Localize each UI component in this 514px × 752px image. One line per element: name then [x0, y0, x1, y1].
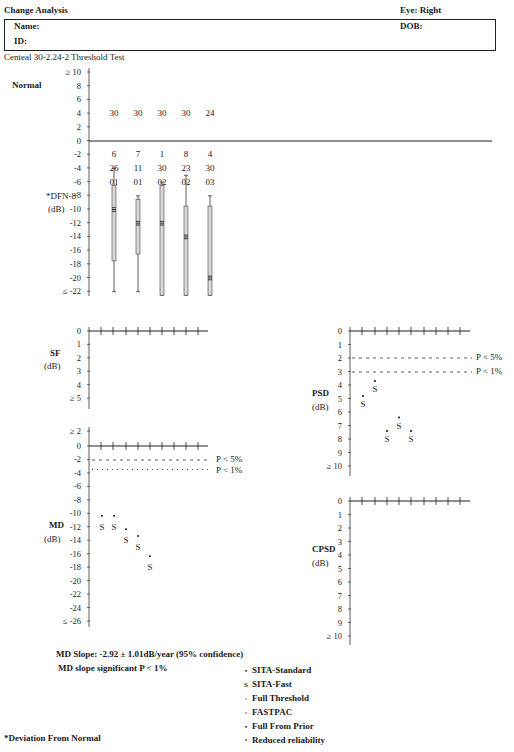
y-tick-label: -16	[70, 245, 81, 255]
svg-text:11: 11	[134, 163, 143, 173]
legend-label: Full From Prior	[252, 721, 314, 731]
y-tick-label: 0	[77, 326, 81, 336]
psd-p5-label: P < 5%	[476, 352, 502, 362]
svg-text:S: S	[135, 542, 140, 552]
y-tick-label: 3	[77, 366, 81, 376]
y-tick-label: -2	[74, 149, 81, 159]
legend-item: •SITA-Standard	[240, 665, 311, 675]
svg-text:0: 0	[77, 441, 81, 451]
legend-symbol-icon: ▫	[240, 709, 252, 717]
y-tick-label: -18	[70, 259, 81, 269]
svg-text:-4: -4	[74, 468, 82, 478]
y-tick-label: 3	[338, 367, 342, 377]
svg-text:S: S	[408, 434, 413, 444]
y-tick-label: 8	[338, 604, 342, 614]
svg-text:-24: -24	[70, 603, 82, 613]
y-tick-label: ≥ 10	[327, 631, 342, 641]
y-tick-label: 6	[338, 577, 342, 587]
legend-item: •Full From Prior	[240, 721, 314, 731]
svg-text:S: S	[123, 535, 128, 545]
charts-canvas: ≥ 1086420-2-4-6-8-10-12-14-16-18-20≤ -22…	[0, 0, 514, 752]
svg-text:8: 8	[184, 149, 189, 159]
y-tick-label: -12	[70, 218, 81, 228]
legend-item: ◦Full Threshold	[240, 693, 309, 703]
y-tick-label: ≥ 10	[327, 461, 342, 471]
y-tick-label: -8	[74, 190, 81, 200]
legend-symbol-icon: •	[240, 723, 252, 731]
y-tick-label: 6	[338, 407, 342, 417]
y-tick-label: 7	[338, 591, 342, 601]
svg-text:30: 30	[134, 108, 144, 118]
y-tick-label: ≥ 5	[70, 393, 81, 403]
svg-text:≤ -26: ≤ -26	[63, 616, 81, 626]
legend-label: SITA-Standard	[252, 665, 311, 675]
legend-symbol-icon: ◦	[240, 695, 252, 703]
y-tick-label: -10	[70, 204, 81, 214]
y-tick-label: -6	[74, 177, 81, 187]
psd-chart: 0123456789≥ 10 SSSSS	[327, 326, 472, 476]
y-tick-label: 2	[338, 353, 342, 363]
svg-text:30: 30	[182, 108, 192, 118]
sf-chart: 01234≥ 5	[70, 326, 208, 409]
y-tick-label: 5	[338, 394, 342, 404]
svg-text:-20: -20	[70, 576, 81, 586]
y-tick-label: 9	[338, 618, 342, 628]
svg-text:30: 30	[206, 163, 216, 173]
md-p5-label: P < 5%	[216, 454, 242, 464]
y-tick-label: 8	[77, 81, 81, 91]
svg-text:S: S	[396, 421, 401, 431]
svg-text:-18: -18	[70, 562, 81, 572]
legend-label: FASTPAC	[252, 707, 292, 717]
md-slope-text: MD Slope: -2.92 ± 1.01dB/year (95% confi…	[56, 649, 243, 659]
legend-item: SSITA-Fast	[240, 679, 292, 689]
md-chart: ≥ 20-2-4-6-8-10-12-14-16-18-20-22-24≤ -2…	[63, 426, 210, 627]
svg-text:30: 30	[110, 108, 120, 118]
dfn-footnote: *Deviation From Normal	[4, 733, 101, 743]
y-tick-label: -4	[74, 163, 82, 173]
svg-text:-10: -10	[70, 508, 81, 518]
y-tick-label: 1	[338, 340, 342, 350]
y-tick-label: 4	[338, 380, 343, 390]
svg-text:≥ 2: ≥ 2	[70, 426, 81, 436]
svg-text:-14: -14	[70, 535, 82, 545]
y-tick-label: 4	[77, 108, 82, 118]
y-tick-label: -14	[70, 231, 82, 241]
y-tick-label: 8	[338, 434, 342, 444]
y-tick-label: -20	[70, 273, 81, 283]
y-tick-label: 2	[77, 122, 81, 132]
psd-p1-label: P < 1%	[476, 366, 502, 376]
y-tick-label: 4	[77, 380, 82, 390]
md-p1-label: P < 1%	[216, 465, 242, 475]
y-tick-label: 7	[338, 421, 342, 431]
legend-symbol-icon: S	[240, 681, 252, 689]
svg-text:S: S	[111, 522, 116, 532]
svg-text:-2: -2	[74, 454, 81, 464]
y-tick-label: 0	[338, 326, 342, 336]
svg-text:4: 4	[208, 149, 213, 159]
y-tick-label: 5	[338, 564, 342, 574]
svg-text:S: S	[99, 522, 104, 532]
y-tick-label: 0	[77, 136, 81, 146]
svg-text:24: 24	[206, 108, 216, 118]
svg-text:03: 03	[206, 177, 216, 187]
y-tick-label: 0	[338, 496, 342, 506]
svg-text:1: 1	[160, 149, 165, 159]
legend-symbol-icon: •	[240, 667, 252, 675]
svg-text:-12: -12	[70, 522, 81, 532]
svg-text:-8: -8	[74, 495, 81, 505]
svg-text:30: 30	[158, 163, 168, 173]
y-tick-label: ≥ 10	[66, 67, 81, 77]
y-tick-label: 1	[77, 339, 81, 349]
dfn-chart: ≥ 1086420-2-4-6-8-10-12-14-16-18-20≤ -22…	[63, 67, 492, 296]
y-tick-label: 2	[77, 353, 81, 363]
svg-text:01: 01	[134, 177, 143, 187]
svg-text:23: 23	[182, 163, 192, 173]
svg-text:7: 7	[136, 149, 141, 159]
cpsd-chart: 0123456789≥ 10	[327, 496, 470, 645]
legend-label: Full Threshold	[252, 693, 309, 703]
md-significance-text: MD slope significant P < 1%	[58, 663, 167, 673]
y-tick-label: 1	[338, 510, 342, 520]
svg-text:S: S	[384, 434, 389, 444]
y-tick-label: ≤ -22	[63, 286, 81, 296]
svg-text:S: S	[372, 384, 377, 394]
